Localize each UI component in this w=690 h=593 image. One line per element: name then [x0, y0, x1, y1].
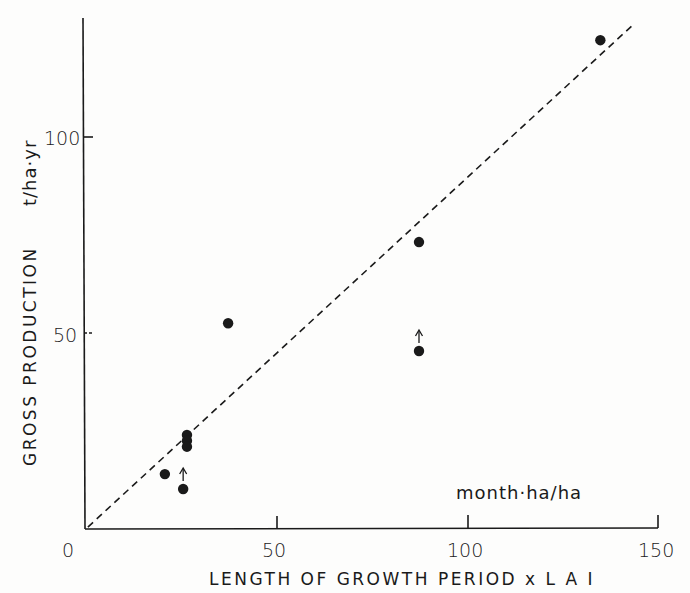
data-point — [223, 318, 233, 328]
x-axis-title: LENGTH OF GROWTH PERIOD x L A I — [209, 569, 595, 589]
up-arrow-icon — [415, 330, 422, 343]
data-point — [595, 35, 605, 45]
data-point — [178, 484, 188, 494]
data-point — [414, 346, 424, 356]
y-axis-line — [83, 18, 85, 529]
data-point — [414, 237, 424, 247]
x-axis-line — [85, 528, 658, 529]
x-tick-label-0: 0 — [62, 539, 74, 561]
x-tick-label-150: 150 — [638, 539, 674, 561]
y-axis-title: GROSS PRODUCTION — [20, 246, 40, 466]
x-tick-label-100: 100 — [447, 539, 483, 561]
scatter-chart: 0 50 100 150 100 50 LENGTH OF GROWTH PER… — [0, 0, 690, 593]
x-tick-label-50: 50 — [262, 539, 286, 561]
up-arrow-icon — [180, 468, 187, 481]
reference-line — [88, 23, 635, 527]
y-tick-label-50: 50 — [53, 324, 77, 346]
data-points — [160, 35, 606, 494]
x-axis-unit: month·ha/ha — [456, 482, 582, 503]
data-point — [160, 469, 170, 479]
y-tick-label-100: 100 — [44, 127, 80, 149]
dashed-reference-line — [88, 23, 635, 527]
data-point — [182, 441, 192, 451]
y-axis-unit: t/ha·yr — [19, 140, 40, 206]
